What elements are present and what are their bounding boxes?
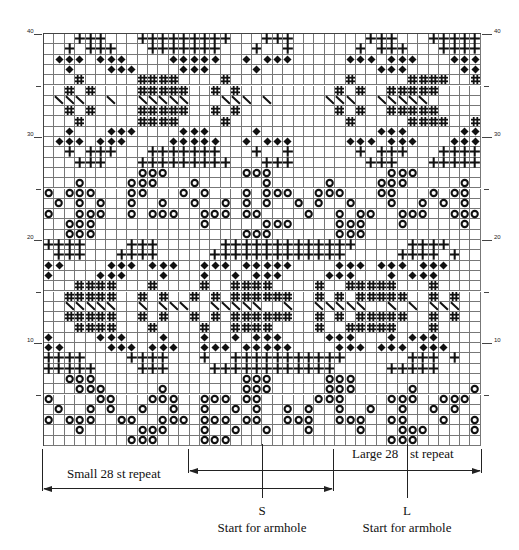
chart-cell (335, 44, 345, 54)
chart-cell (106, 65, 116, 75)
chart-cell (252, 436, 262, 446)
chart-cell (439, 425, 449, 435)
chart-cell (387, 271, 397, 281)
row-tick-left (34, 137, 42, 138)
cross-icon (304, 353, 313, 362)
chart-cell (387, 436, 397, 446)
chart-cell (356, 189, 366, 199)
ring-icon (273, 189, 282, 198)
ring-icon (65, 189, 74, 198)
chart-cell (346, 292, 356, 302)
diamond-icon (179, 137, 188, 146)
chart-cell (450, 302, 460, 312)
chart-cell (283, 116, 293, 126)
ring-icon (86, 374, 95, 383)
chart-cell (273, 75, 283, 85)
hash-icon (242, 312, 251, 321)
chart-cell (138, 199, 148, 209)
chart-cell (117, 312, 127, 322)
slash-icon (169, 302, 178, 311)
chart-cell (127, 34, 137, 44)
ring-icon (242, 189, 251, 198)
cross-icon (304, 364, 313, 373)
chart-cell (54, 281, 64, 291)
chart-cell (86, 374, 96, 384)
ring-icon (44, 209, 53, 218)
chart-cell (54, 106, 64, 116)
row-tick-minor-left (36, 86, 41, 87)
chart-cell (408, 292, 418, 302)
hash-icon (190, 292, 199, 301)
hash-icon (356, 292, 365, 301)
chart-cell (429, 199, 439, 209)
chart-cell (54, 65, 64, 75)
chart-cell (117, 116, 127, 126)
chart-cell (96, 44, 106, 54)
chart-cell (460, 312, 470, 322)
chart-cell (200, 302, 210, 312)
hash-icon (398, 106, 407, 115)
slash-icon (439, 302, 448, 311)
chart-cell (418, 312, 428, 322)
ring-icon (346, 415, 355, 424)
chart-cell (387, 292, 397, 302)
ring-icon (377, 178, 386, 187)
cross-icon (75, 240, 84, 249)
chart-cell (200, 364, 210, 374)
hash-icon (335, 312, 344, 321)
chart-cell (335, 271, 345, 281)
chart-cell (44, 75, 54, 85)
chart-cell (335, 364, 345, 374)
cross-icon (262, 364, 271, 373)
slash-icon (418, 96, 427, 105)
chart-cell (325, 364, 335, 374)
cross-icon (158, 34, 167, 43)
ring-icon (44, 189, 53, 198)
chart-cell (283, 250, 293, 260)
chart-cell (460, 333, 470, 343)
chart-cell (158, 261, 168, 271)
diamond-icon (387, 55, 396, 64)
chart-cell (127, 147, 137, 157)
chart-cell (231, 158, 241, 168)
chart-cell (470, 261, 480, 271)
chart-cell (138, 384, 148, 394)
chart-cell (325, 333, 335, 343)
chart-cell (200, 374, 210, 384)
chart-cell (346, 395, 356, 405)
chart-cell (366, 240, 376, 250)
hash-icon (231, 86, 240, 95)
diamond-icon (252, 333, 261, 342)
ring-icon (429, 405, 438, 414)
chart-cell (273, 364, 283, 374)
cross-icon (138, 34, 147, 43)
chart-cell (106, 292, 116, 302)
chart-cell (75, 364, 85, 374)
chart-cell (117, 168, 127, 178)
chart-cell (200, 405, 210, 415)
chart-cell (325, 158, 335, 168)
chart-cell (242, 312, 252, 322)
chart-cell (86, 302, 96, 312)
chart-cell (158, 127, 168, 137)
chart-cell (429, 106, 439, 116)
chart-cell (96, 96, 106, 106)
chart-cell (86, 44, 96, 54)
chart-cell (429, 44, 439, 54)
ring-icon (190, 199, 199, 208)
chart-cell (127, 199, 137, 209)
chart-cell (439, 219, 449, 229)
chart-cell (179, 250, 189, 260)
chart-cell (54, 199, 64, 209)
chart-cell (169, 250, 179, 260)
chart-cell (418, 415, 428, 425)
diamond-icon (252, 343, 261, 352)
chart-cell (54, 261, 64, 271)
chart-cell (231, 364, 241, 374)
chart-cell (54, 55, 64, 65)
chart-cell (252, 86, 262, 96)
chart-cell (387, 415, 397, 425)
ring-icon (138, 168, 147, 177)
chart-cell (117, 96, 127, 106)
ring-icon (65, 374, 74, 383)
